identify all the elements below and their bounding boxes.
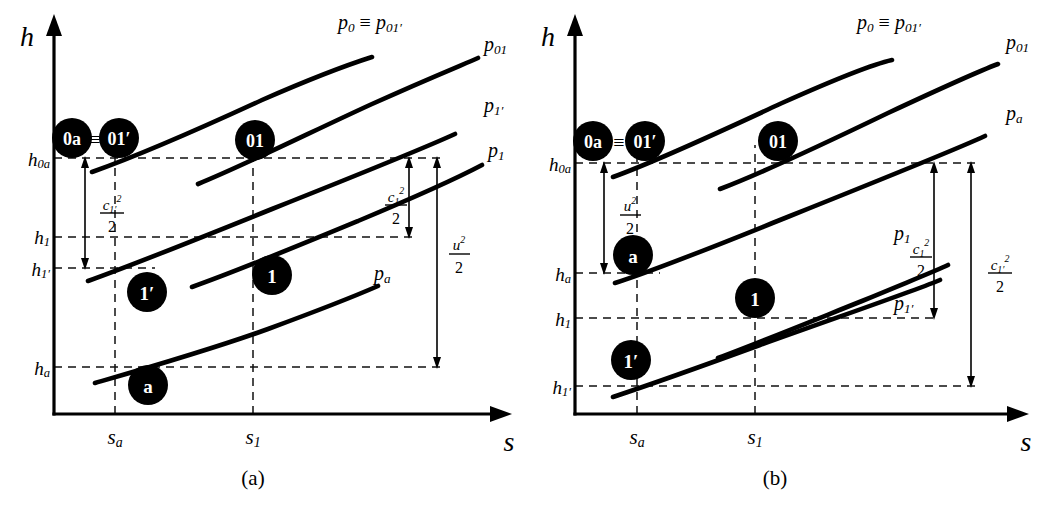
panel-caption-a: (a) [241,466,264,490]
y-tick-ha-a: ha [34,358,50,381]
svg-text:c12: c12 [913,237,930,259]
curve-label-p1-b: p1 [892,222,911,246]
svg-text:2: 2 [626,220,634,237]
node-0a-b[interactable]: 0a [573,121,613,161]
y-tick-h1p-b: h1′ [552,377,571,400]
y-tick-h0a-b: h0a [549,154,571,177]
y-axis-label-b: h [541,21,555,52]
mollier-diagram-svg: h s h0a h1 h1′ ha sa s1 p0 ≡ p01′ p01 p1… [0,0,1059,506]
svg-text:1′: 1′ [624,351,639,372]
dimension-label-u2over2-a: u2 2 [449,234,470,276]
curve-label-p1p-a: p1′ [482,94,505,118]
curve-label-p0-b: p0 ≡ p01′ [855,11,922,35]
curve-label-p01-a: p01 [482,33,507,57]
node-01p-b[interactable]: 01′ [625,121,665,161]
svg-text:2: 2 [996,278,1004,295]
svg-text:u2: u2 [453,234,466,254]
svg-text:01′: 01′ [107,129,130,149]
svg-text:a: a [628,246,638,267]
curve-label-pa-b: pa [1004,102,1023,126]
dimension-label-c1p2over2-b: c1′2 2 [988,253,1012,295]
panel-b: h s h0a ha h1 h1′ sa s1 p0 ≡ p01′ p01 pa… [541,11,1032,490]
curve-label-p1-a: p1 [486,139,505,163]
dimension-c1p2over2-b [967,161,975,388]
svg-text:1: 1 [267,266,277,287]
x-axis-arrow-b [1007,406,1029,422]
node-01p-a[interactable]: 01′ [99,118,139,158]
node-1p-b[interactable]: 1′ [611,340,651,380]
panel-a: h s h0a h1 h1′ ha sa s1 p0 ≡ p01′ p01 p1… [20,11,515,490]
svg-text:0a: 0a [63,129,81,149]
dimension-label-c1p2over2-a: c1′2 2 [100,193,124,235]
x-tick-sa-b: sa [629,425,644,450]
svg-text:c1′2: c1′2 [103,193,122,215]
x-tick-sa-a: sa [107,425,122,450]
svg-text:1′: 1′ [140,283,155,304]
node-a-b[interactable]: a [613,235,653,275]
panel-caption-b: (b) [763,466,788,490]
node-equiv-a: ≡ [89,128,100,150]
svg-text:u2: u2 [624,195,637,215]
node-1p-a[interactable]: 1′ [127,272,167,312]
dimension-label-u2over2-b: u2 2 [620,195,641,237]
node-1-a[interactable]: 1 [252,255,292,295]
curve-label-p1p-b: p1′ [892,292,915,316]
svg-text:c1′2: c1′2 [991,253,1010,275]
node-01-b[interactable]: 01 [758,121,798,161]
node-equiv-b: ≡ [613,131,624,153]
isobar-pa-b [615,136,985,283]
dimension-label-c12over2-a: c12 2 [385,185,407,227]
svg-text:a: a [143,376,153,397]
node-0a-a[interactable]: 0a [52,118,92,158]
svg-text:01: 01 [246,131,264,151]
x-axis-label-b: s [1021,426,1032,457]
curve-label-p0-a: p0 ≡ p01′ [336,11,403,35]
y-axis-arrow-b [567,14,583,36]
dimension-u2over2-b [600,161,608,275]
svg-text:01: 01 [769,132,787,152]
page-bottom-edge [0,500,1059,506]
dimension-c1p2over2-a [81,156,89,270]
y-axis-arrow-a [46,14,62,36]
y-tick-h1-b: h1 [555,309,571,332]
y-axis-label-a: h [20,21,34,52]
node-a-a[interactable]: a [128,365,168,405]
y-tick-ha-b: ha [555,264,571,287]
curve-label-pa-a: pa [372,262,391,286]
x-tick-s1-a: s1 [245,425,260,450]
x-axis-label-a: s [504,426,515,457]
isobar-p0-a [92,57,372,172]
svg-text:2: 2 [455,259,463,276]
isobar-p1p-b [613,280,940,397]
y-tick-h0a-a: h0a [28,149,50,172]
isobar-p0-b [613,60,892,177]
dimension-c12over2-b [930,161,938,320]
svg-text:2: 2 [392,210,400,227]
x-tick-s1-b: s1 [747,425,762,450]
svg-text:1: 1 [750,289,760,310]
figure-root: h s h0a h1 h1′ ha sa s1 p0 ≡ p01′ p01 p1… [0,0,1059,506]
svg-text:0a: 0a [584,132,602,152]
isobar-p01-b [720,64,998,189]
y-tick-h1-a: h1 [34,227,50,250]
svg-text:2: 2 [108,218,116,235]
curve-label-p01-b: p01 [1004,31,1029,55]
y-tick-h1p-a: h1′ [31,259,50,282]
node-01-a[interactable]: 01 [235,120,275,160]
x-axis-arrow-a [490,406,512,422]
node-1-b[interactable]: 1 [735,278,775,318]
svg-text:01′: 01′ [633,132,656,152]
svg-text:2: 2 [917,262,925,279]
